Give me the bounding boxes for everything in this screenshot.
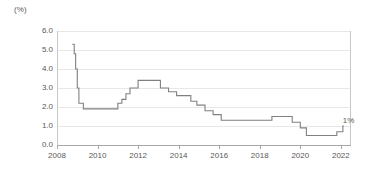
- x-axis-tick-mark: [219, 145, 220, 149]
- x-axis-tick-label: 2016: [199, 152, 239, 160]
- y-axis-tick-label: 5.0: [13, 46, 53, 54]
- y-axis-tick-label: 0.0: [13, 141, 53, 149]
- plot-area: 1%: [57, 31, 351, 145]
- x-axis-tick-label: 2014: [159, 152, 199, 160]
- x-axis-line: [57, 145, 351, 146]
- x-axis-tick-label: 2020: [280, 152, 320, 160]
- x-axis-tick-label: 2022: [321, 152, 361, 160]
- y-axis-tick-label: 1.0: [13, 122, 53, 130]
- y-axis-tick-label: 4.0: [13, 65, 53, 73]
- y-axis-tick-label: 2.0: [13, 103, 53, 111]
- x-axis-tick-label: 2018: [240, 152, 280, 160]
- y-axis-tick-label: 6.0: [13, 27, 53, 35]
- x-axis-tick-mark: [179, 145, 180, 149]
- line-chart: (%) 0.01.02.03.04.05.06.0 1% 20082010201…: [0, 0, 372, 179]
- x-axis-tick-mark: [57, 145, 58, 149]
- x-axis-tick-mark: [138, 145, 139, 149]
- x-axis-tick-mark: [260, 145, 261, 149]
- x-axis-tick-mark: [98, 145, 99, 149]
- end-value-annotation: 1%: [343, 117, 355, 125]
- y-axis-tick-label: 3.0: [13, 84, 53, 92]
- x-axis-tick-mark: [300, 145, 301, 149]
- x-axis-tick-label: 2010: [78, 152, 118, 160]
- series-line-policy-rate: [57, 31, 351, 145]
- x-axis-tick-label: 2012: [118, 152, 158, 160]
- x-axis-tick-mark: [341, 145, 342, 149]
- x-axis-tick-label: 2008: [37, 152, 77, 160]
